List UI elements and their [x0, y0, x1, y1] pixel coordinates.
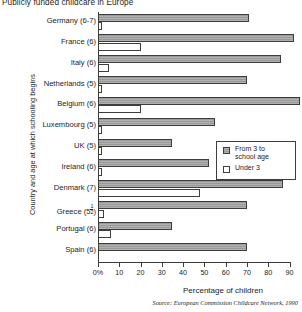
x-axis-title: Percentage of children [183, 286, 263, 295]
bar-from-3-to-school-age [98, 201, 247, 209]
bar-under-3 [98, 230, 111, 238]
bar-from-3-to-school-age [98, 180, 283, 188]
bar-under-3 [98, 168, 102, 176]
bar-from-3-to-school-age [98, 14, 249, 22]
category-label: Luxembourg (5) [42, 120, 96, 129]
legend-swatch-under-3 [223, 166, 230, 173]
bar-from-3-to-school-age [98, 55, 281, 63]
bar-group [98, 220, 290, 241]
bar-under-3 [98, 189, 200, 197]
bar-group [98, 200, 290, 221]
category-label: Denmark (7) [54, 183, 96, 192]
legend-label-under-3: Under 3 [235, 164, 260, 172]
bar-from-3-to-school-age [98, 76, 247, 84]
chart-title: Publicly funded childcare in Europe [2, 0, 262, 7]
x-tick [162, 263, 163, 267]
chart-container: Publicly funded childcare in Europe Coun… [0, 0, 301, 312]
bar-under-3 [98, 147, 102, 155]
x-tick [290, 263, 291, 267]
bar-group [98, 95, 290, 116]
x-tick [119, 263, 120, 267]
chart-legend: From 3 to school age Under 3 [216, 141, 296, 180]
category-label: Portugal (6) [56, 224, 96, 233]
bar-from-3-to-school-age [98, 159, 209, 167]
bar-under-3 [98, 85, 102, 93]
bar-under-3 [98, 43, 141, 51]
category-label: Ireland (6) [61, 162, 96, 171]
bar-from-3-to-school-age [98, 139, 172, 147]
bar-from-3-to-school-age [98, 243, 247, 251]
bar-under-3 [98, 126, 102, 134]
x-axis-line [98, 262, 291, 263]
bar-from-3-to-school-age [98, 97, 300, 105]
bar-group [98, 75, 290, 96]
category-label: France (6) [61, 37, 96, 46]
bar-group [98, 241, 290, 262]
bar-under-3 [98, 105, 141, 113]
legend-swatch-from-3-to-school-age [223, 147, 230, 154]
bar-from-3-to-school-age [98, 118, 215, 126]
category-label: Italy (6) [71, 58, 96, 67]
chart-source: Source: European Commission Childcare Ne… [152, 299, 298, 306]
x-tick [183, 263, 184, 267]
bar-group [98, 33, 290, 54]
x-tick [268, 263, 269, 267]
y-axis-title: Country and age at which schooling begin… [28, 65, 37, 225]
category-label: Netherlands (5) [44, 79, 96, 88]
bar-group [98, 116, 290, 137]
category-label: Germany (6-7) [47, 16, 96, 25]
bar-under-3 [98, 210, 104, 218]
bar-group [98, 179, 290, 200]
x-tick [226, 263, 227, 267]
category-label: Spain (6) [65, 245, 96, 254]
plot-area [98, 12, 290, 262]
x-tick [204, 263, 205, 267]
bar-from-3-to-school-age [98, 34, 294, 42]
x-tick [247, 263, 248, 267]
x-tick [98, 263, 99, 267]
bar-under-3 [98, 64, 109, 72]
category-label: UK (5) [74, 141, 96, 150]
bar-group [98, 12, 290, 33]
x-tick [141, 263, 142, 267]
bar-group [98, 54, 290, 75]
legend-label-from-3-to-school-age: From 3 to school age [235, 145, 269, 162]
category-label: Greece (512) [57, 204, 96, 216]
category-label: Belgium (6) [57, 99, 96, 108]
bar-under-3 [98, 22, 102, 30]
x-tick-label: 90 [276, 268, 302, 277]
bar-from-3-to-school-age [98, 222, 172, 230]
